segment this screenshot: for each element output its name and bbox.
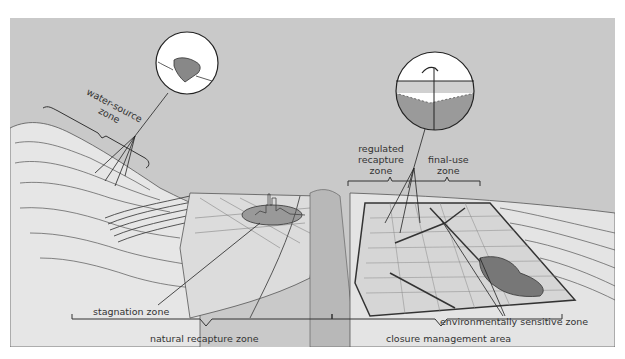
stagnation-zone-label: stagnation zone bbox=[93, 306, 169, 317]
natural-recapture-zone-label: natural recapture zone bbox=[150, 333, 259, 344]
central-ridge bbox=[310, 190, 355, 347]
environmentally-sensitive-zone-label: environmentally sensitive zone bbox=[440, 316, 588, 327]
final-use-label-line1: final-use bbox=[428, 154, 469, 165]
final-use-label-line2: zone bbox=[428, 165, 469, 176]
regulated-label-line3: zone bbox=[358, 165, 404, 176]
regulated-label-line2: recapture bbox=[358, 154, 404, 165]
regulated-recapture-zone-label: regulated recapture zone bbox=[358, 143, 404, 176]
final-use-bracket bbox=[415, 177, 480, 186]
final-use-zone-label: final-use zone bbox=[428, 154, 469, 176]
closure-management-area-label: closure management area bbox=[386, 333, 511, 344]
landscape-illustration bbox=[10, 18, 615, 347]
regulated-label-line1: regulated bbox=[358, 143, 404, 154]
illustration-panel: water-source zone regulated recapture zo… bbox=[10, 18, 615, 347]
